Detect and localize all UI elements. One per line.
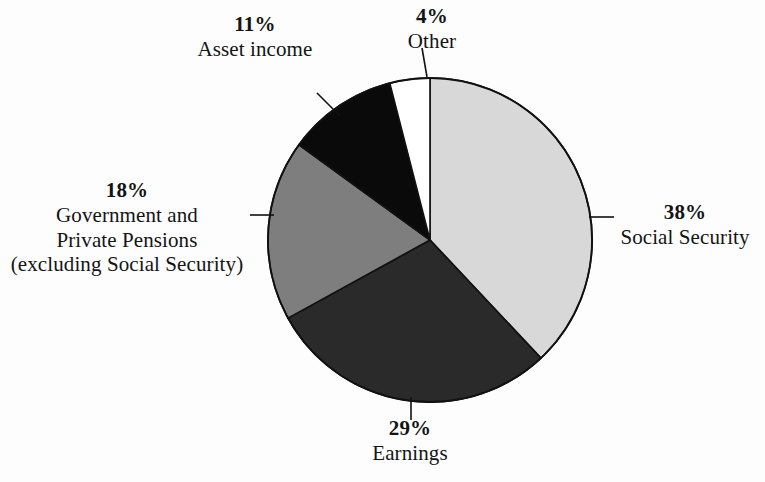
pie-label-asset-income-percent: 11% [150,12,360,37]
pie-label-pensions-percent: 18% [2,178,252,203]
pie-label-earnings-name: Earnings [330,441,490,466]
pie-label-other-name: Other [352,29,512,54]
pie-label-other: 4% Other [352,4,512,54]
pie-chart-figure: 4% Other 11% Asset income 18% Government… [0,0,765,482]
pie-label-pensions-name-line-2: Private Pensions [2,228,252,253]
pie-label-social-security-name: Social Security [605,225,765,250]
pie-label-pensions-name: Government and Private Pensions (excludi… [2,203,252,277]
pie-label-other-percent: 4% [352,4,512,29]
leader-line-asset-income [317,93,340,116]
pie-label-earnings-percent: 29% [330,416,490,441]
pie-label-asset-income-name: Asset income [150,37,360,62]
pie-label-pensions: 18% Government and Private Pensions (exc… [2,178,252,277]
pie-label-earnings: 29% Earnings [330,416,490,466]
pie-label-pensions-name-line-3: (excluding Social Security) [2,252,252,277]
pie-label-social-security: 38% Social Security [605,200,765,250]
pie-label-asset-income: 11% Asset income [150,12,360,62]
pie-label-pensions-name-line-1: Government and [2,203,252,228]
pie-label-social-security-percent: 38% [605,200,765,225]
